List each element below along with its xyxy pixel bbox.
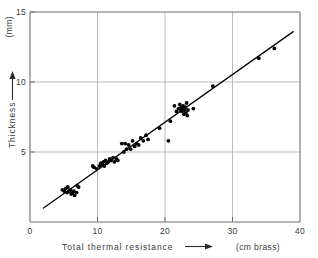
data-point [137, 143, 141, 147]
data-point [146, 138, 150, 142]
data-point [116, 159, 120, 163]
chart-canvas: 15 10 5 0 10 20 30 40 (mm) Thickness Tot… [0, 0, 318, 258]
data-point [183, 105, 187, 109]
regression-line-group [44, 32, 294, 208]
data-point [186, 108, 190, 112]
xtick-label-30: 30 [227, 226, 237, 236]
data-point [120, 142, 124, 146]
ytick-label-15: 15 [16, 7, 26, 17]
data-point [173, 104, 177, 108]
data-point [211, 84, 215, 88]
scatter-plot-figure: 15 10 5 0 10 20 30 40 (mm) Thickness Tot… [0, 0, 318, 258]
y-axis-unit-label: (mm) [4, 16, 14, 37]
data-point [142, 139, 146, 143]
data-point [169, 119, 173, 123]
data-point [144, 133, 148, 137]
data-point [102, 164, 106, 168]
data-point [129, 147, 133, 151]
ytick-label-5: 5 [21, 147, 26, 157]
data-point [75, 191, 79, 195]
data-point [272, 47, 276, 51]
data-point [123, 142, 127, 146]
xtick-label-0: 0 [27, 226, 32, 236]
data-point [66, 185, 70, 189]
x-axis-arrow-icon [185, 243, 213, 249]
data-point [158, 126, 162, 130]
data-points-layer [61, 47, 277, 198]
tick-marks [30, 12, 233, 222]
xtick-label-40: 40 [295, 226, 305, 236]
data-point [185, 101, 189, 105]
data-point [111, 156, 115, 160]
data-point [127, 143, 131, 147]
x-axis-title: Total thermal resistance [62, 242, 173, 252]
xtick-label-20: 20 [160, 226, 170, 236]
y-axis-title: Thickness [7, 102, 17, 148]
x-axis-unit-label: (cm brass) [236, 242, 280, 252]
data-point [125, 147, 129, 151]
y-axis-arrow-icon [9, 71, 15, 100]
data-point [77, 185, 81, 189]
data-point [131, 139, 135, 143]
data-point [191, 107, 195, 111]
data-point [122, 150, 126, 154]
ytick-label-10: 10 [16, 77, 26, 87]
data-point [257, 56, 261, 60]
data-point [95, 167, 99, 171]
data-point [139, 136, 143, 140]
data-point [185, 114, 189, 118]
regression-line [44, 32, 294, 208]
xtick-label-10: 10 [92, 226, 102, 236]
data-point [166, 139, 170, 143]
